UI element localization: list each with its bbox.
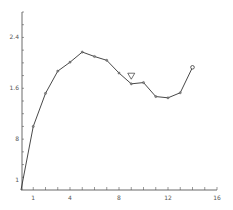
triangle-marker (128, 73, 135, 79)
data-point (69, 61, 71, 63)
data-point (155, 95, 157, 97)
series (21, 51, 194, 190)
ticks (22, 12, 217, 190)
x-tick-label: 16 (213, 194, 221, 201)
data-point-open (191, 66, 195, 70)
data-point (130, 83, 132, 85)
axes (21, 12, 217, 190)
x-tick-label: 12 (164, 194, 172, 201)
annotations (128, 73, 135, 79)
x-tick-label: 4 (68, 194, 72, 201)
y-tick-label: 1 (15, 176, 19, 183)
data-point (106, 59, 108, 61)
tick-labels: 1481216181.62.4 (9, 33, 221, 201)
x-tick-label: 8 (117, 194, 121, 201)
data-point (44, 92, 46, 94)
data-point (179, 92, 181, 94)
y-tick-label: 2.4 (9, 33, 19, 40)
data-point (57, 70, 59, 72)
data-point (167, 97, 169, 99)
data-point (142, 81, 144, 83)
series-line (21, 52, 193, 190)
line-chart: 1481216181.62.4 (0, 0, 233, 210)
y-tick-label: 1.6 (9, 84, 19, 91)
data-point (32, 125, 34, 127)
data-point (81, 51, 83, 53)
y-tick-label: 8 (15, 135, 19, 142)
data-point (118, 72, 120, 74)
x-tick-label: 1 (31, 194, 35, 201)
data-point (93, 55, 95, 57)
